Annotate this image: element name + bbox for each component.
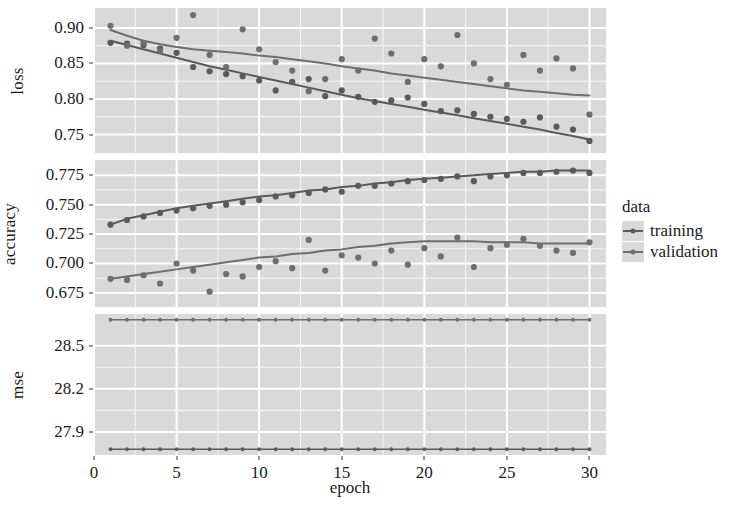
y-tick-mark <box>89 204 93 205</box>
y-tick-label-accuracy-3: 0.750 <box>0 195 84 215</box>
y-tick-mark <box>89 134 93 135</box>
x-tick-mark <box>176 456 177 460</box>
y-tick-label-accuracy-0: 0.675 <box>0 283 84 303</box>
y-tick-label-loss-3: 0.90 <box>0 18 84 38</box>
legend-item-validation[interactable]: validation <box>622 242 718 262</box>
legend: data training validation <box>622 197 718 263</box>
legend-title: data <box>622 197 718 217</box>
y-tick-label-mse-2: 28.5 <box>0 336 84 356</box>
y-tick-label-mse-0: 27.9 <box>0 422 84 442</box>
y-tick-mark <box>89 27 93 28</box>
legend-label-training: training <box>650 221 703 241</box>
y-tick-mark <box>89 63 93 64</box>
y-tick-label-accuracy-2: 0.725 <box>0 224 84 244</box>
y-tick-label-loss-2: 0.85 <box>0 53 84 73</box>
y-tick-label-accuracy-4: 0.775 <box>0 165 84 185</box>
y-tick-mark <box>89 292 93 293</box>
x-tick-mark <box>341 456 342 460</box>
legend-label-validation: validation <box>650 242 718 262</box>
y-tick-label-loss-0: 0.75 <box>0 125 84 145</box>
legend-key-training-icon <box>622 221 644 241</box>
y-tick-mark <box>89 431 93 432</box>
facet-panel-loss <box>94 8 606 153</box>
x-tick-mark <box>424 456 425 460</box>
x-tick-mark <box>94 456 95 460</box>
facet-panel-mse <box>94 314 606 455</box>
y-tick-mark <box>89 234 93 235</box>
legend-key-validation-icon <box>622 242 644 262</box>
x-tick-mark <box>259 456 260 460</box>
y-tick-mark <box>89 263 93 264</box>
y-tick-mark <box>89 388 93 389</box>
x-tick-mark <box>506 456 507 460</box>
chart-canvas: loss accuracy mse 0.750.800.850.900.6750… <box>0 0 742 506</box>
facet-panel-accuracy <box>94 160 606 307</box>
x-axis-title: epoch <box>94 478 606 498</box>
y-tick-label-accuracy-1: 0.700 <box>0 253 84 273</box>
y-tick-mark <box>89 98 93 99</box>
legend-item-training[interactable]: training <box>622 221 718 241</box>
y-tick-mark <box>89 345 93 346</box>
x-tick-mark <box>589 456 590 460</box>
y-tick-mark <box>89 175 93 176</box>
y-tick-label-mse-1: 28.2 <box>0 379 84 399</box>
y-tick-label-loss-1: 0.80 <box>0 89 84 109</box>
